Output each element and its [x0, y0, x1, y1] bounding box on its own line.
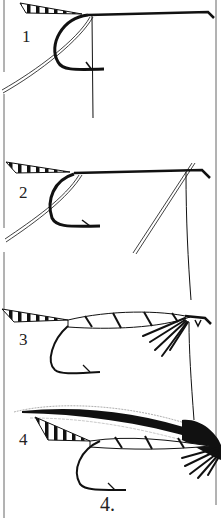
step-3-label: 3 — [19, 331, 28, 348]
step-1-label: 1 — [22, 28, 31, 45]
step-3-illustration — [2, 309, 211, 420]
step-4-illustration — [14, 406, 221, 490]
figure-caption: 4. — [100, 494, 115, 514]
step-2-illustration — [5, 162, 210, 300]
diagram-artwork — [0, 0, 221, 518]
step-4-label: 4 — [19, 431, 28, 448]
fly-tying-diagram: 1 2 3 4 4. — [0, 0, 221, 518]
step-2-label: 2 — [19, 184, 28, 201]
step-1-illustration — [2, 3, 214, 118]
